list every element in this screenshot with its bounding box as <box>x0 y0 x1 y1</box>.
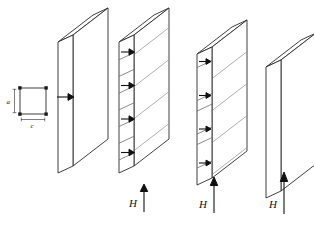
figure-canvas: a c <box>0 0 314 225</box>
slab4-front-face <box>266 60 281 198</box>
slab1-front-face <box>58 35 73 173</box>
field-label-panel3: H <box>198 198 208 210</box>
slab-fine-stripe-domains <box>117 8 175 188</box>
legend-corner-br <box>44 112 47 115</box>
slab3-side-face <box>212 20 247 178</box>
slab-coarse-stripe-domains <box>195 20 253 185</box>
slab-saturated <box>266 33 314 198</box>
crystal-axes-legend: a c <box>7 86 48 130</box>
legend-corner-tr <box>44 86 47 89</box>
legend-a-dimension <box>13 89 17 113</box>
legend-label-a: a <box>7 98 11 106</box>
slab4-side-face <box>281 33 314 191</box>
legend-corner-tl <box>18 86 21 89</box>
slab1-side-face <box>73 8 108 166</box>
legend-square <box>20 88 46 114</box>
slab-single-domain <box>57 8 108 173</box>
legend-label-c: c <box>31 122 35 130</box>
field-indicator-panel2: H <box>128 184 148 212</box>
field-label-panel4: H <box>268 198 278 210</box>
field-label-panel2: H <box>128 197 138 209</box>
diagram-svg: a c <box>0 0 314 225</box>
legend-c-dimension <box>21 118 45 122</box>
legend-corner-bl <box>18 112 21 115</box>
